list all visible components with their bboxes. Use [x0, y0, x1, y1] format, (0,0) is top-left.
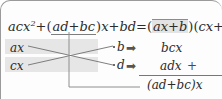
- right-arrow-icon-top: ➡: [126, 42, 136, 54]
- figure-panel: acx2+(ad+bc)x+bd=(ax+b)(cx+d) ax cx b d …: [0, 0, 222, 99]
- grid-term-right-top: b: [117, 41, 125, 53]
- product-top: bcx: [161, 42, 182, 54]
- right-arrow-icon-bottom: ➡: [126, 60, 136, 72]
- node-dot-bottom: [113, 64, 115, 66]
- grid-term-left-top: ax: [10, 42, 24, 54]
- product-bottom: adx: [160, 60, 182, 72]
- addition-operator: +: [187, 60, 197, 72]
- sum-result: (ad+bc)x: [147, 79, 202, 91]
- grid-term-left-bottom: cx: [10, 60, 24, 72]
- grid-term-right-bottom: d: [117, 59, 125, 71]
- sum-rule-line: [139, 75, 222, 76]
- node-dot-top: [113, 46, 115, 48]
